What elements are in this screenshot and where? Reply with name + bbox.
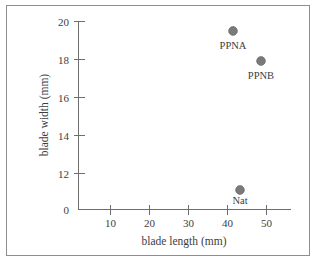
x-tick-label-40: 40 xyxy=(222,217,234,229)
y-tick-label-20: 20 xyxy=(58,16,70,28)
data-point-ppna[interactable] xyxy=(229,27,238,36)
plot-canvas: 20 18 16 14 12 0 10 20 30 40 50 blade le… xyxy=(0,0,323,265)
y-axis-title: blade width (mm) xyxy=(38,74,51,157)
x-tick-label-50: 50 xyxy=(261,217,273,229)
data-label-ppnb: PPNB xyxy=(248,70,274,81)
x-tick-label-20: 20 xyxy=(144,217,156,229)
data-label-nat: Nat xyxy=(232,195,247,206)
y-tick-label-18: 18 xyxy=(58,54,70,66)
y-tick-label-12: 12 xyxy=(58,168,69,180)
scatter-plot-figure: 20 18 16 14 12 0 10 20 30 40 50 blade le… xyxy=(0,0,323,265)
y-tick-label-0: 0 xyxy=(64,204,70,216)
data-point-nat[interactable] xyxy=(236,186,245,195)
data-point-ppnb[interactable] xyxy=(257,57,266,66)
data-label-ppna: PPNA xyxy=(220,40,247,51)
data-series: PPNA PPNB Nat xyxy=(220,27,275,206)
x-tick-label-10: 10 xyxy=(105,217,117,229)
x-axis-title: blade length (mm) xyxy=(142,235,227,248)
y-tick-label-14: 14 xyxy=(58,130,70,142)
y-tick-label-16: 16 xyxy=(58,92,70,104)
x-tick-label-30: 30 xyxy=(183,217,195,229)
